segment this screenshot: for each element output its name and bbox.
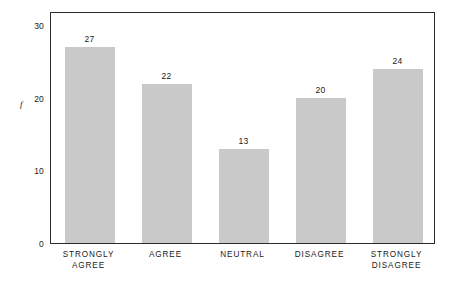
bar-chart-figure: f 0102030 2722132024 STRONGLY AGREEAGREE… xyxy=(0,0,451,283)
bar-value-label: 27 xyxy=(65,34,115,44)
bar-group[interactable]: 22 xyxy=(142,11,192,243)
x-axis-category-label: NEUTRAL xyxy=(204,249,281,260)
x-axis-category-label: DISAGREE xyxy=(281,249,358,260)
y-axis-tick-label: 20 xyxy=(18,93,44,106)
bar-group[interactable]: 27 xyxy=(65,11,115,243)
bar[interactable] xyxy=(296,98,346,243)
y-axis-tick-label: 30 xyxy=(18,20,44,33)
bar[interactable] xyxy=(65,47,115,243)
y-axis-tick-label: 10 xyxy=(18,165,44,178)
y-axis-tick-label: 0 xyxy=(18,238,44,251)
bar-group[interactable]: 13 xyxy=(219,11,269,243)
x-axis-category-label: STRONGLY AGREE xyxy=(50,249,127,271)
bar[interactable] xyxy=(142,84,192,244)
bar-group[interactable]: 24 xyxy=(373,11,423,243)
bar-value-label: 24 xyxy=(373,56,423,66)
x-axis-category-label: STRONGLY DISAGREE xyxy=(358,249,435,271)
bar[interactable] xyxy=(373,69,423,243)
bar-value-label: 20 xyxy=(296,85,346,95)
x-axis-category-label: AGREE xyxy=(127,249,204,260)
bar-group[interactable]: 20 xyxy=(296,11,346,243)
plot-area: 2722132024 xyxy=(50,12,435,244)
bar-value-label: 13 xyxy=(219,136,269,146)
bar[interactable] xyxy=(219,149,269,243)
bar-value-label: 22 xyxy=(142,71,192,81)
